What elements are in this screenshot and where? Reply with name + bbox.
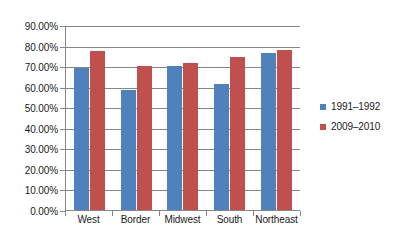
bar: [183, 63, 198, 210]
bar-group: [66, 26, 113, 210]
bar-group: [160, 26, 207, 210]
y-tick-label: 70.00%: [25, 62, 58, 73]
x-tick-mark: [112, 211, 113, 216]
y-tick-label: 90.00%: [25, 21, 58, 32]
legend-swatch-icon: [320, 124, 326, 130]
chart-legend: 1991–19922009–2010: [320, 101, 404, 141]
y-tick-label: 60.00%: [25, 82, 58, 93]
x-axis: WestBorderMidwestSouthNortheast: [65, 214, 300, 234]
bars-layer: [66, 26, 300, 210]
bar: [261, 53, 276, 210]
x-tick-mark: [300, 211, 301, 216]
bar: [90, 51, 105, 210]
y-tick-label: 0.00%: [30, 206, 58, 217]
bar-chart: 0.00%10.00%20.00%30.00%40.00%50.00%60.00…: [0, 0, 404, 238]
x-tick-label: South: [206, 214, 253, 234]
bar: [230, 57, 245, 210]
y-tick-label: 80.00%: [25, 41, 58, 52]
legend-label: 2009–2010: [331, 121, 380, 132]
bar: [137, 66, 152, 210]
x-tick-mark: [206, 211, 207, 216]
y-tick-label: 20.00%: [25, 164, 58, 175]
bar-group: [253, 26, 300, 210]
bar: [277, 50, 292, 210]
x-tick-mark: [253, 211, 254, 216]
x-tick-label: Northeast: [253, 214, 300, 234]
legend-entry[interactable]: 1991–1992: [320, 101, 404, 112]
bar-group: [113, 26, 160, 210]
legend-entry[interactable]: 2009–2010: [320, 121, 404, 132]
bar: [121, 90, 136, 210]
y-axis: 0.00%10.00%20.00%30.00%40.00%50.00%60.00…: [0, 26, 58, 211]
bar: [214, 84, 229, 210]
plot-area: [65, 26, 300, 211]
y-tick-label: 30.00%: [25, 144, 58, 155]
bar-group: [206, 26, 253, 210]
y-tick-label: 10.00%: [25, 185, 58, 196]
x-tick-label: Border: [112, 214, 159, 234]
bar: [74, 68, 89, 210]
x-tick-mark: [159, 211, 160, 216]
legend-swatch-icon: [320, 104, 326, 110]
y-tick-label: 50.00%: [25, 103, 58, 114]
bar: [167, 66, 182, 210]
legend-label: 1991–1992: [331, 101, 380, 112]
y-tick-label: 40.00%: [25, 123, 58, 134]
x-tick-label: West: [65, 214, 112, 234]
x-tick-label: Midwest: [159, 214, 206, 234]
x-tick-mark: [65, 211, 66, 216]
